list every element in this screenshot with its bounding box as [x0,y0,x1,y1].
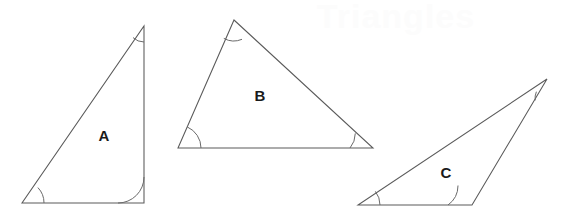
triangles-diagram: Triangles A B C [0,0,567,223]
triangles-figure-canvas: Triangles A B C [0,0,567,223]
triangle-a-label: A [99,127,110,144]
watermark-label: Triangles [317,0,475,35]
triangle-c-label: C [441,164,452,181]
triangle-b-label: B [255,87,266,104]
